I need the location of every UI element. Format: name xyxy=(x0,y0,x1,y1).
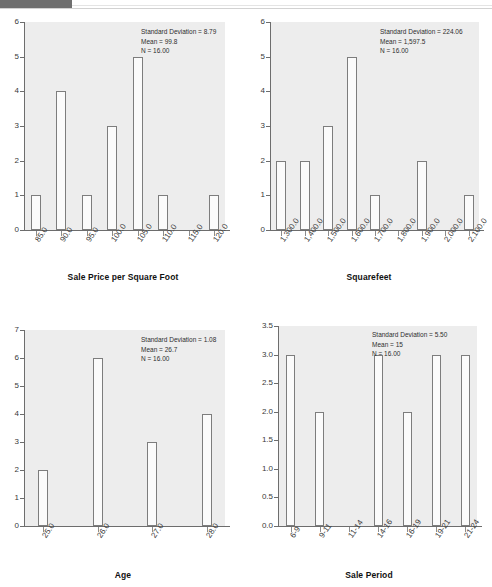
statistic-n: N = 16.00 xyxy=(372,349,447,359)
y-axis-label: 1.0 xyxy=(244,465,273,473)
y-axis-label: 0 xyxy=(0,226,19,234)
y-axis-tick xyxy=(274,440,278,441)
y-axis-label: 2 xyxy=(0,466,19,474)
y-axis-label: 2 xyxy=(236,157,265,165)
y-axis-label: 5 xyxy=(236,53,265,61)
statistic-mean: Mean = 15 xyxy=(372,340,447,350)
y-axis-label: 5 xyxy=(0,53,19,61)
histogram-bar xyxy=(461,355,470,526)
y-axis-label: 0.5 xyxy=(244,493,273,501)
statistic-mean: Mean = 99.8 xyxy=(141,37,216,47)
y-axis-tick xyxy=(266,22,270,23)
statistics-annotation: Standard Deviation = 5.50Mean = 15N = 16… xyxy=(372,330,447,359)
y-axis-tick xyxy=(266,126,270,127)
histogram-bar xyxy=(209,195,219,230)
histogram-bar xyxy=(286,355,295,526)
histogram-grid: 012345685.090.095.0100.0105.0110.0115.01… xyxy=(0,10,492,587)
statistic-n: N = 16.00 xyxy=(141,354,216,364)
histogram-age: 0123456725.026.027.028.0Standard Deviati… xyxy=(0,293,246,587)
header-divider-line xyxy=(0,8,492,9)
y-axis-tick xyxy=(266,161,270,162)
histogram-bar xyxy=(403,412,412,526)
y-axis-label: 3 xyxy=(0,122,19,130)
x-axis-title: Sale Period xyxy=(246,570,492,580)
y-axis-tick xyxy=(20,414,24,415)
statistic-n: N = 16.00 xyxy=(141,46,216,56)
y-axis-tick xyxy=(20,498,24,499)
y-axis-tick xyxy=(20,126,24,127)
y-axis-tick xyxy=(274,412,278,413)
y-axis-line xyxy=(24,22,25,231)
statistic-sd: Standard Deviation = 8.79 xyxy=(141,27,216,37)
y-axis-line xyxy=(270,22,271,231)
histogram-bar xyxy=(347,57,357,230)
y-axis-tick xyxy=(274,469,278,470)
y-axis-label: 3.5 xyxy=(244,322,273,330)
histogram-bar xyxy=(56,91,66,230)
x-axis-title: Sale Price per Square Foot xyxy=(0,272,246,282)
histogram-sale-price-per-square-foot: 012345685.090.095.0100.0105.0110.0115.01… xyxy=(0,10,246,293)
y-axis-label: 4 xyxy=(236,87,265,95)
y-axis-label: 1 xyxy=(0,191,19,199)
histogram-bar xyxy=(133,57,143,230)
y-axis-label: 4 xyxy=(0,410,19,418)
y-axis-tick xyxy=(274,526,278,527)
y-axis-tick xyxy=(20,230,24,231)
y-axis-tick xyxy=(20,386,24,387)
histogram-bar xyxy=(370,195,380,230)
y-axis-label: 3 xyxy=(0,438,19,446)
histogram-bar xyxy=(276,161,286,230)
y-axis-tick xyxy=(20,195,24,196)
y-axis-line xyxy=(278,326,279,527)
y-axis-tick xyxy=(274,383,278,384)
histogram-bar xyxy=(147,442,157,526)
y-axis-label: 0.0 xyxy=(244,522,273,530)
histogram-bar xyxy=(417,161,427,230)
y-axis-label: 6 xyxy=(0,354,19,362)
y-axis-tick xyxy=(20,358,24,359)
statistic-sd: Standard Deviation = 224.06 xyxy=(380,27,463,37)
y-axis-tick xyxy=(266,57,270,58)
y-axis-label: 1 xyxy=(0,494,19,502)
y-axis-tick xyxy=(20,57,24,58)
y-axis-label: 5 xyxy=(0,382,19,390)
y-axis-tick xyxy=(20,22,24,23)
histogram-bar xyxy=(93,358,103,526)
histogram-bar xyxy=(432,355,441,526)
histogram-sale-period: 0.00.51.01.52.02.53.03.56-99-1111-1414-1… xyxy=(246,293,492,587)
histogram-bar xyxy=(464,195,474,230)
y-axis-line xyxy=(24,330,25,527)
y-axis-tick xyxy=(20,526,24,527)
statistics-annotation: Standard Deviation = 224.06Mean = 1,597.… xyxy=(380,27,463,56)
y-axis-label: 6 xyxy=(236,18,265,26)
statistic-sd: Standard Deviation = 5.50 xyxy=(372,330,447,340)
histogram-bar xyxy=(323,126,333,230)
statistics-annotation: Standard Deviation = 1.08Mean = 26.7N = … xyxy=(141,335,216,364)
x-axis-title: Age xyxy=(0,570,246,580)
statistics-annotation: Standard Deviation = 8.79Mean = 99.8N = … xyxy=(141,27,216,56)
histogram-bar xyxy=(82,195,92,230)
y-axis-label: 0 xyxy=(236,226,265,234)
histogram-bar xyxy=(38,470,48,526)
histogram-bar xyxy=(158,195,168,230)
y-axis-label: 2.5 xyxy=(244,379,273,387)
y-axis-tick xyxy=(266,230,270,231)
statistic-sd: Standard Deviation = 1.08 xyxy=(141,335,216,345)
y-axis-label: 1.5 xyxy=(244,436,273,444)
y-axis-tick xyxy=(20,161,24,162)
statistic-n: N = 16.00 xyxy=(380,46,463,56)
histogram-bar xyxy=(107,126,117,230)
histogram-bar xyxy=(202,414,212,526)
x-axis-title: Squarefeet xyxy=(246,272,492,282)
y-axis-tick xyxy=(274,326,278,327)
y-axis-label: 6 xyxy=(0,18,19,26)
y-axis-tick xyxy=(20,442,24,443)
y-axis-label: 3.0 xyxy=(244,351,273,359)
y-axis-label: 7 xyxy=(0,326,19,334)
histogram-squarefeet: 01234561,300.01,400.01,500.01,600.01,700… xyxy=(246,10,492,293)
y-axis-label: 1 xyxy=(236,191,265,199)
statistic-mean: Mean = 1,597.5 xyxy=(380,37,463,47)
y-axis-tick xyxy=(20,330,24,331)
histogram-bar xyxy=(31,195,41,230)
histogram-bar xyxy=(315,412,324,526)
